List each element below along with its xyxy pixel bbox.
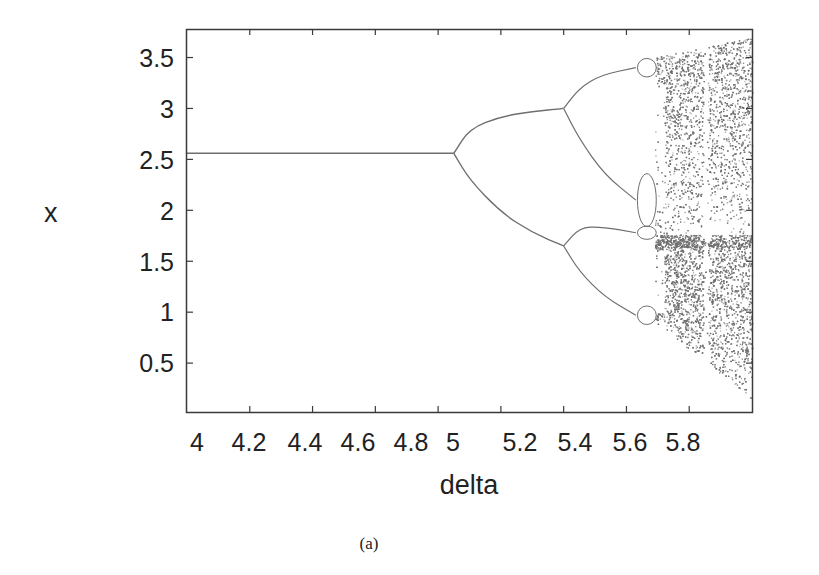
- xtick-label: 5.8: [666, 430, 701, 455]
- xtick-label: 4: [190, 430, 204, 455]
- period4-branch-p4-c: [564, 227, 636, 246]
- period8-loop: [637, 306, 656, 325]
- xtick-label: 4.8: [394, 430, 429, 455]
- bifurcation-data: [187, 39, 753, 399]
- period2-branch-upper: [454, 108, 564, 153]
- xtick-label: 4.6: [341, 430, 376, 455]
- period8-loop: [637, 174, 656, 227]
- x-axis-label: delta: [440, 470, 499, 501]
- ytick-label: 3.5: [114, 46, 174, 71]
- ytick-label: 0.5: [114, 351, 174, 376]
- ytick-label: 2.5: [114, 148, 174, 173]
- xtick-label: 5.6: [613, 430, 648, 455]
- period8-loop: [637, 58, 656, 77]
- xtick-label: 4.4: [288, 430, 323, 455]
- period4-branch-p4-a: [564, 68, 636, 109]
- ytick-label: 1: [114, 300, 174, 325]
- xtick-label: 5.2: [503, 430, 538, 455]
- ytick-label: 2: [114, 199, 174, 224]
- period8-loop: [637, 226, 656, 239]
- chaotic-region: [655, 39, 753, 399]
- period4-branch-p4-d: [564, 246, 636, 315]
- plot-area: [0, 0, 819, 575]
- ytick-label: 3: [114, 97, 174, 122]
- ytick-label: 1.5: [114, 250, 174, 275]
- xtick-label: 5: [446, 430, 460, 455]
- xtick-label: 4.2: [232, 430, 267, 455]
- bifurcation-figure: 0.5 1 1.5 2 2.5 3 3.5 4 4.2 4.4 4.6 4.8 …: [0, 0, 819, 575]
- period2-branch-lower: [454, 153, 564, 246]
- period4-branch-p4-b: [564, 108, 636, 200]
- figure-caption: (a): [360, 534, 379, 554]
- axis-ticks: [187, 29, 752, 412]
- xtick-label: 5.4: [558, 430, 593, 455]
- y-axis-label: x: [44, 198, 58, 229]
- plot-frame: [187, 30, 753, 413]
